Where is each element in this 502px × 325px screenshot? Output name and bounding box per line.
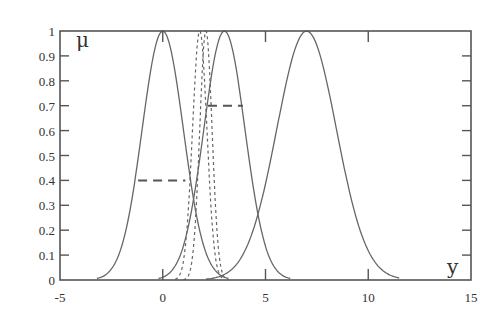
- y-tick-label: 0.3: [39, 198, 55, 213]
- gaussian-center-0-curve: [97, 31, 229, 279]
- x-tick-label: -5: [55, 290, 66, 305]
- annotation-lines: [138, 106, 243, 181]
- y-tick-label: 0.6: [39, 124, 56, 139]
- gaussian-center-3-curve: [159, 31, 291, 279]
- y-tick-label: 0.2: [39, 223, 55, 238]
- y-tick-label: 0.8: [39, 74, 55, 89]
- plot-frame: [60, 31, 471, 280]
- y-tick-label: 0.4: [39, 173, 56, 188]
- y-tick-label: 0.5: [39, 149, 55, 164]
- narrow-dashed-right-curve: [183, 31, 228, 280]
- gaussian-center-7-curve: [206, 31, 399, 279]
- x-tick-label: 15: [465, 290, 478, 305]
- x-axis-ticks: -5051015: [55, 31, 478, 305]
- x-tick-label: 10: [362, 290, 375, 305]
- y-tick-label: 0.1: [39, 248, 55, 263]
- x-tick-label: 5: [262, 290, 269, 305]
- y-tick-label: 0: [49, 273, 56, 288]
- y-tick-label: 0.9: [39, 49, 55, 64]
- y-axis-label: μ: [76, 28, 89, 52]
- x-tick-label: 0: [160, 290, 167, 305]
- y-tick-label: 0.7: [39, 99, 56, 114]
- y-axis-ticks: 00.10.20.30.40.50.60.70.80.91: [39, 24, 471, 288]
- y-tick-label: 1: [49, 24, 56, 39]
- curves: [97, 31, 399, 280]
- membership-function-chart: 00.10.20.30.40.50.60.70.80.91 -5051015 μ…: [0, 0, 502, 325]
- x-axis-label: y: [446, 255, 459, 279]
